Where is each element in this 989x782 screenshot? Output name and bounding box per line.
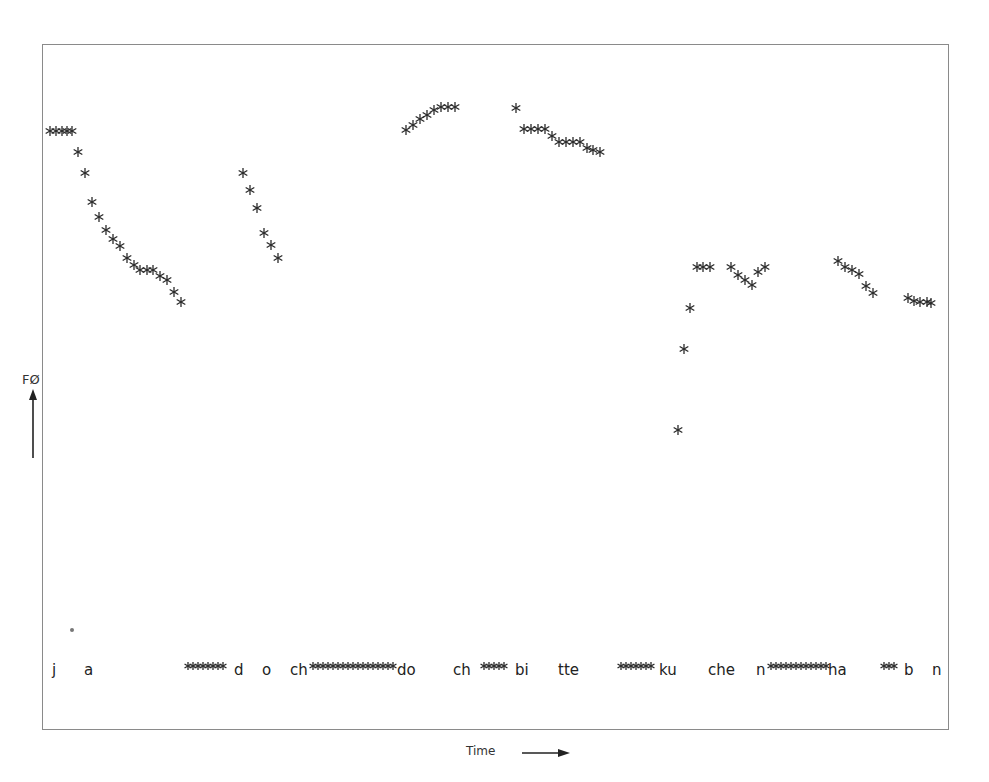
asterisk-marker-icon [869, 288, 878, 298]
asterisk-marker-icon [340, 662, 347, 670]
asterisk-marker-icon [163, 275, 172, 285]
asterisk-marker-icon [741, 275, 750, 285]
asterisk-marker-icon [88, 197, 97, 207]
asterisk-marker-icon [569, 137, 578, 147]
syllable-label: ch [290, 661, 308, 679]
asterisk-marker-icon [274, 253, 283, 263]
asterisk-marker-icon [706, 262, 715, 272]
syllable-label: o [262, 661, 271, 679]
asterisk-marker-icon [310, 662, 317, 670]
asterisk-marker-icon [380, 662, 387, 670]
asterisk-marker-icon [315, 662, 322, 670]
asterisk-marker-icon [95, 212, 104, 222]
asterisk-marker-icon [200, 662, 207, 670]
asterisk-marker-icon [699, 262, 708, 272]
asterisk-marker-icon [793, 662, 800, 670]
asterisk-marker-icon [783, 662, 790, 670]
asterisk-marker-icon [402, 125, 411, 135]
asterisk-marker-icon [253, 203, 262, 213]
asterisk-marker-icon [808, 662, 815, 670]
asterisk-marker-icon [768, 662, 775, 670]
y-axis-arrow-icon [29, 389, 37, 458]
asterisk-marker-icon [891, 662, 898, 670]
asterisk-marker-icon [496, 662, 503, 670]
asterisk-marker-icon [803, 662, 810, 670]
asterisk-marker-icon [345, 662, 352, 670]
stray-mark [70, 628, 74, 632]
asterisk-marker-icon [74, 147, 83, 157]
asterisk-marker-icon [778, 662, 785, 670]
asterisk-marker-icon [330, 662, 337, 670]
asterisk-marker-icon [648, 662, 655, 670]
asterisk-marker-icon [205, 662, 212, 670]
asterisk-marker-icon [335, 662, 342, 670]
asterisk-marker-icon [185, 662, 192, 670]
asterisk-marker-icon [881, 662, 888, 670]
asterisk-marker-icon [754, 267, 763, 277]
asterisk-marker-icon [143, 265, 152, 275]
asterisk-marker-icon [512, 103, 521, 113]
asterisk-marker-icon [686, 303, 695, 313]
asterisk-marker-icon [680, 344, 689, 354]
asterisk-marker-icon [239, 168, 248, 178]
asterisk-marker-icon [798, 662, 805, 670]
asterisk-marker-icon [58, 126, 67, 136]
asterisk-marker-icon [260, 228, 269, 238]
asterisk-marker-icon [350, 662, 357, 670]
asterisk-marker-icon [623, 662, 630, 670]
asterisk-marker-icon [220, 662, 227, 670]
asterisk-marker-icon [170, 287, 179, 297]
asterisk-marker-icon [102, 225, 111, 235]
syllable-label: ha [828, 661, 847, 679]
asterisk-marker-icon [81, 168, 90, 178]
syllable-label: d [234, 661, 244, 679]
x-axis-label: Time [466, 744, 495, 758]
asterisk-marker-icon [444, 102, 453, 112]
asterisk-marker-icon [423, 110, 432, 120]
asterisk-marker-icon [501, 662, 508, 670]
asterisk-marker-icon [520, 124, 529, 134]
syllable-label: ku [659, 661, 677, 679]
asterisk-marker-icon [190, 662, 197, 670]
asterisk-marker-icon [855, 269, 864, 279]
asterisk-marker-icon [813, 662, 820, 670]
asterisk-marker-icon [267, 240, 276, 250]
asterisk-marker-icon [862, 281, 871, 291]
asterisk-marker-icon [748, 280, 757, 290]
syllable-label: bi [515, 661, 529, 679]
asterisk-marker-icon [727, 262, 736, 272]
syllable-label: a [84, 661, 93, 679]
syllable-label: n [756, 661, 766, 679]
y-axis-label: FØ [22, 372, 40, 387]
asterisk-marker-icon [123, 253, 132, 263]
syllable-label: che [708, 661, 735, 679]
asterisk-marker-icon [628, 662, 635, 670]
asterisk-marker-icon [390, 662, 397, 670]
asterisk-marker-icon [618, 662, 625, 670]
asterisk-marker-icon [693, 262, 702, 272]
syllable-labels: jadochdochbittekuchenhabn [51, 628, 942, 679]
asterisk-marker-icon [68, 126, 77, 136]
asterisk-marker-icon [355, 662, 362, 670]
asterisk-marker-icon [325, 662, 332, 670]
asterisk-marker-icon [370, 662, 377, 670]
f0-contour-chart: jadochdochbittekuchenhabn [0, 0, 989, 782]
asterisk-marker-icon [734, 270, 743, 280]
asterisk-marker-icon [46, 126, 55, 136]
syllable-label: b [904, 661, 914, 679]
asterisk-marker-icon [638, 662, 645, 670]
asterisk-marker-icon [320, 662, 327, 670]
asterisk-marker-icon [360, 662, 367, 670]
x-axis-arrow-icon [522, 749, 570, 757]
asterisk-marker-icon [481, 662, 488, 670]
asterisk-marker-icon [818, 662, 825, 670]
asterisk-marker-icon [210, 662, 217, 670]
asterisk-marker-icon [215, 662, 222, 670]
asterisk-marker-icon [116, 241, 125, 251]
data-points [46, 102, 936, 435]
asterisk-marker-icon [904, 293, 913, 303]
syllable-label: n [932, 661, 942, 679]
asterisk-marker-icon [375, 662, 382, 670]
asterisk-marker-icon [109, 234, 118, 244]
asterisk-marker-icon [541, 124, 550, 134]
